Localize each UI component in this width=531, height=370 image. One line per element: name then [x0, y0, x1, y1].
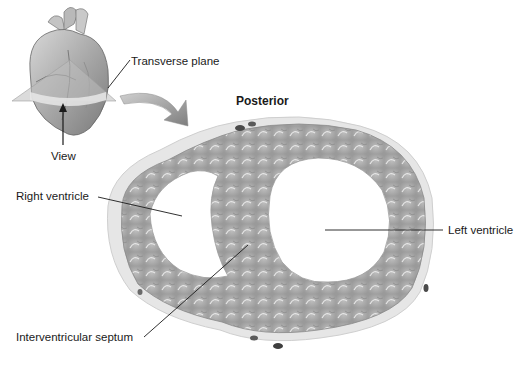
- coronary-vessel: [138, 289, 143, 295]
- label-left-ventricle: Left ventricle: [448, 224, 513, 236]
- coronary-vessel: [424, 284, 429, 292]
- coronary-vessel: [273, 343, 283, 349]
- curved-arrow-icon: [120, 93, 188, 126]
- coronary-vessel: [235, 125, 245, 131]
- coronary-vessel: [250, 336, 258, 341]
- heart-cross-section-diagram: Transverse plane View Posterior Right ve…: [0, 0, 531, 370]
- coronary-vessel: [248, 122, 256, 127]
- label-orientation-posterior: Posterior: [236, 94, 289, 108]
- label-transverse-plane: Transverse plane: [131, 55, 219, 67]
- label-right-ventricle: Right ventricle: [16, 190, 89, 202]
- label-interventricular-septum: Interventricular septum: [16, 331, 133, 343]
- diagram-artwork: [0, 0, 531, 370]
- label-view: View: [51, 150, 76, 162]
